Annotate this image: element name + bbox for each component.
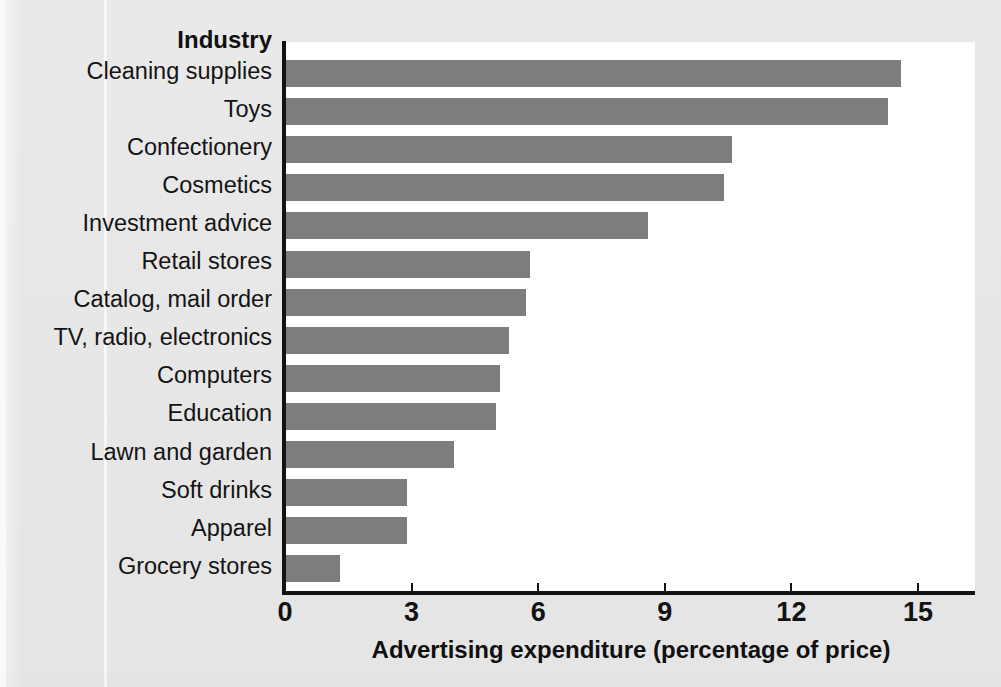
x-axis-tick-label: 0 xyxy=(255,597,315,628)
y-axis-category-label: Investment advice xyxy=(0,210,272,237)
x-axis-tick xyxy=(917,583,919,595)
bar xyxy=(285,403,496,430)
y-axis-category-label: TV, radio, electronics xyxy=(0,324,272,351)
x-axis-tick xyxy=(664,583,666,595)
chart-figure: Industry Cleaning suppliesToysConfection… xyxy=(0,0,1001,687)
bar xyxy=(285,441,454,468)
y-axis-line xyxy=(282,41,286,594)
bar xyxy=(285,289,526,316)
bar xyxy=(285,365,500,392)
y-axis-category-label: Catalog, mail order xyxy=(0,286,272,313)
bar xyxy=(285,174,724,201)
x-axis-tick-label: 3 xyxy=(382,597,442,628)
x-axis-tick-label: 12 xyxy=(761,597,821,628)
x-axis-tick xyxy=(411,583,413,595)
bar xyxy=(285,479,407,506)
bar xyxy=(285,98,888,125)
bar xyxy=(285,251,530,278)
x-axis-tick xyxy=(790,583,792,595)
y-axis-category-label: Cosmetics xyxy=(0,172,272,199)
x-axis-tick-label: 15 xyxy=(888,597,948,628)
plot-area xyxy=(285,42,975,593)
bar xyxy=(285,136,732,163)
y-axis-category-label: Computers xyxy=(0,362,272,389)
y-axis-category-label: Education xyxy=(0,400,272,427)
x-axis-line xyxy=(282,591,975,595)
y-axis-category-label: Lawn and garden xyxy=(0,439,272,466)
y-axis-category-label: Retail stores xyxy=(0,248,272,275)
bar xyxy=(285,60,901,87)
y-axis-category-labels: Cleaning suppliesToysConfectioneryCosmet… xyxy=(0,0,272,687)
bar xyxy=(285,327,509,354)
x-axis-title: Advertising expenditure (percentage of p… xyxy=(285,636,977,664)
y-axis-category-label: Toys xyxy=(0,96,272,123)
bar xyxy=(285,555,340,582)
y-axis-category-label: Confectionery xyxy=(0,134,272,161)
bar xyxy=(285,517,407,544)
x-axis-tick xyxy=(537,583,539,595)
y-axis-category-label: Apparel xyxy=(0,515,272,542)
x-axis-tick-label: 9 xyxy=(635,597,695,628)
y-axis-category-label: Cleaning supplies xyxy=(0,58,272,85)
y-axis-category-label: Soft drinks xyxy=(0,477,272,504)
bar xyxy=(285,212,648,239)
x-axis-tick-label: 6 xyxy=(508,597,568,628)
y-axis-category-label: Grocery stores xyxy=(0,553,272,580)
